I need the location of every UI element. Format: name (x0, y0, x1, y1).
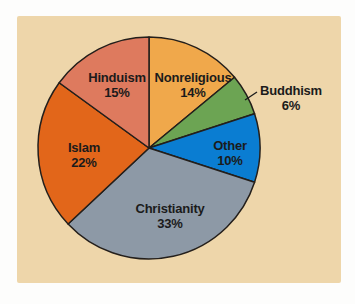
slice-value-nonreligious: 14% (180, 85, 206, 100)
chart-panel: Nonreligious14%Buddhism6%Other10%Christi… (17, 16, 341, 283)
slice-value-hinduism: 15% (104, 85, 130, 100)
slice-name-buddhism: Buddhism (260, 83, 322, 98)
slice-value-other: 10% (217, 153, 243, 168)
page: Nonreligious14%Buddhism6%Other10%Christi… (0, 0, 355, 304)
slice-name-other: Other (213, 138, 247, 153)
slice-name-islam: Islam (68, 140, 100, 155)
slice-value-christianity: 33% (157, 216, 183, 231)
pie-chart-svg: Nonreligious14%Buddhism6%Other10%Christi… (17, 16, 341, 283)
slice-name-nonreligious: Nonreligious (154, 70, 231, 85)
slice-name-christianity: Christianity (135, 201, 205, 216)
slice-value-islam: 22% (71, 155, 97, 170)
slice-value-buddhism: 6% (282, 98, 301, 113)
slice-name-hinduism: Hinduism (88, 70, 146, 85)
